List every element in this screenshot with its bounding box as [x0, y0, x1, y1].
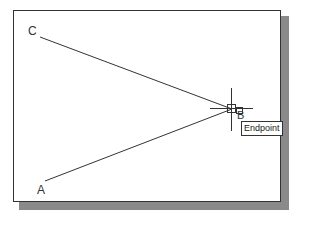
line-c-b[interactable] — [40, 37, 232, 109]
point-label-b: B — [237, 110, 244, 121]
line-a-b[interactable] — [45, 109, 232, 181]
point-label-c: C — [28, 25, 37, 37]
point-label-a: A — [37, 184, 45, 196]
snap-tooltip: Endpoint — [241, 121, 283, 136]
